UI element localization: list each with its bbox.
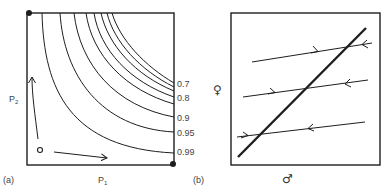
arrow-right-icon: [54, 152, 107, 158]
contour-label: 0.95: [177, 129, 195, 138]
arrow-up-icon: [32, 77, 38, 139]
contour-label: 0.8: [177, 94, 190, 103]
arrow-right-icon: [241, 132, 248, 138]
panel-b: [231, 13, 380, 165]
arrow-right-icon: [311, 46, 318, 53]
male-symbol-icon: ♂: [282, 173, 293, 185]
female-symbol-icon: ♀: [213, 84, 222, 96]
origin-marker: [38, 148, 43, 153]
contour-curves: [42, 13, 174, 153]
y-axis-label-a: P2: [9, 95, 18, 105]
contour-curve-0.8b: [94, 13, 174, 97]
trajectory-middle: [243, 80, 368, 97]
panel-a: [26, 10, 176, 167]
x-axis-label-a: P1: [98, 176, 107, 186]
panel-tag-a: (a): [3, 176, 14, 185]
contour-curve-0.7: [112, 13, 174, 83]
contour-label: 0.7: [177, 80, 190, 89]
contour-label: 0.99: [177, 148, 195, 157]
contour-curve-0.8a: [86, 13, 174, 104]
arrow-left-icon: [308, 124, 314, 131]
corner-point-top-left: [26, 10, 32, 16]
contour-curve-0.75: [101, 13, 174, 91]
trajectory-bottom: [237, 122, 365, 137]
contour-label: 0.9: [177, 114, 190, 123]
corner-point-bottom-right: [170, 161, 176, 167]
panel-tag-b: (b): [193, 176, 204, 185]
contour-curve-0.7a: [107, 13, 174, 87]
figure-canvas: [0, 0, 388, 193]
